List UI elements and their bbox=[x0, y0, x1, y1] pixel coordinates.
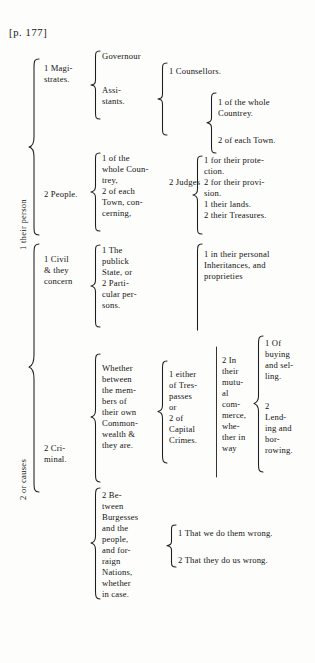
brace-level1-causes bbox=[28, 243, 40, 493]
level3-governour: Governour bbox=[102, 51, 162, 62]
level2-label-magistrates: 1 Magi- strates. bbox=[44, 63, 90, 85]
level2-label-criminal: 2 Cri- minal. bbox=[44, 443, 88, 465]
level3-between-burgesses: 2 Be- tween Burgesses and the people, an… bbox=[102, 490, 162, 600]
brace-burgesses-group bbox=[90, 487, 101, 600]
brace-criminal bbox=[90, 353, 101, 483]
page-number-header: [p. 177] bbox=[9, 27, 47, 38]
level2-label-people: 2 People. bbox=[44, 189, 92, 200]
brace-civil-personal bbox=[192, 243, 203, 331]
level4-counsellors: 1 Counsellors. bbox=[169, 66, 259, 77]
brace-burgesses-wrongs bbox=[166, 524, 177, 568]
level1-label-their-person: 1 their person bbox=[18, 199, 28, 250]
level3-civil-subjects: 1 The publick State, or 2 Parti- cular p… bbox=[102, 245, 158, 311]
level4-burgess-wrong-they: 2 That they do us wrong. bbox=[178, 555, 308, 566]
rule-commerce-left bbox=[215, 347, 218, 477]
level3-assistants: Assi- stants. bbox=[102, 85, 152, 107]
brace-civil bbox=[90, 244, 101, 328]
brace-magistrates bbox=[90, 50, 101, 120]
brace-mutual-commerce bbox=[253, 335, 264, 473]
brace-judges bbox=[206, 92, 217, 154]
level4-trespasses: 1 either of Tres- passes or 2 of Capital… bbox=[169, 369, 215, 446]
brace-level1-person bbox=[28, 58, 40, 236]
brace-whether-between bbox=[157, 360, 168, 464]
level5-buying-selling: 1 Of buying and sel- ling. bbox=[265, 338, 313, 382]
document-page: [p. 177] 1 their person 2 or causes 1 Ma… bbox=[0, 0, 315, 663]
brace-people bbox=[90, 152, 101, 232]
level1-label-or-causes: 2 or causes bbox=[18, 459, 28, 500]
brace-assistants bbox=[157, 62, 168, 136]
level3-whether-between: Whether between the mem- bers of their o… bbox=[102, 363, 164, 451]
level4-civil-personal: 1 in their personal Inheritances, and pr… bbox=[204, 249, 312, 282]
level4-people-concerns: 1 for their prote- ction. 2 for their pr… bbox=[204, 155, 312, 221]
level3-people-of-country: 1 of the whole Coun- trey, 2 of each Tow… bbox=[102, 153, 164, 219]
level5-lending-borrowing: 2 Lend- ing and bor- rowing. bbox=[265, 401, 313, 456]
level5-judges-town: 2 of each Town. bbox=[218, 135, 314, 146]
level2-label-civil: 1 Civil & they concern bbox=[44, 254, 88, 287]
brace-people-concerns bbox=[192, 155, 203, 235]
level4-burgess-wrong-we: 1 That we do them wrong. bbox=[178, 528, 308, 539]
level5-judges-country: 1 of the whole Countrey. bbox=[218, 97, 314, 119]
